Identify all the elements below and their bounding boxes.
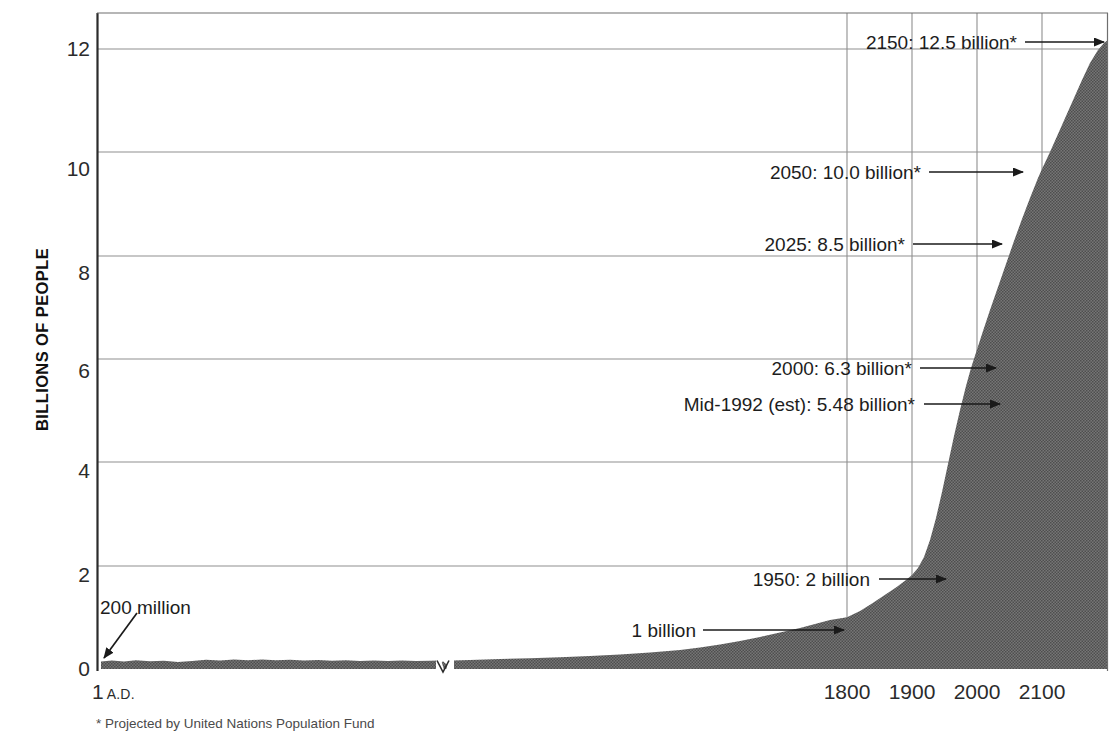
- x-origin-era: A.D.: [107, 686, 135, 702]
- x-axis-tick-labels: 1800 1900 2000 2100: [0, 0, 1120, 731]
- chart-footnote: * Projected by United Nations Population…: [96, 716, 374, 731]
- x-axis-origin-label: 1A.D.: [92, 680, 135, 704]
- x-tick-2000: 2000: [954, 680, 1001, 704]
- x-tick-1900: 1900: [889, 680, 936, 704]
- x-tick-1800: 1800: [824, 680, 871, 704]
- x-tick-2100: 2100: [1019, 680, 1066, 704]
- x-origin-year: 1: [92, 680, 104, 703]
- population-growth-chart: BILLIONS OF PEOPLE 12 10 8 6 4 2 0: [0, 0, 1120, 731]
